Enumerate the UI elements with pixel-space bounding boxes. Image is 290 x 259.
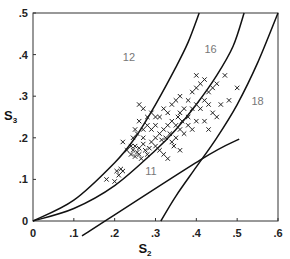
x-marker	[139, 156, 143, 160]
curve-12	[33, 13, 199, 221]
x-marker	[117, 173, 121, 177]
x-marker	[215, 115, 219, 119]
x-marker	[190, 127, 194, 131]
x-marker	[178, 148, 182, 152]
x-marker	[182, 131, 186, 135]
x-marker	[182, 106, 186, 110]
x-marker	[176, 115, 180, 119]
x-marker	[194, 102, 198, 106]
x-marker	[149, 140, 153, 144]
x-marker	[153, 144, 157, 148]
x-marker	[129, 152, 133, 156]
x-marker	[194, 73, 198, 77]
curve-label-16: 16	[205, 43, 217, 55]
x-marker	[157, 131, 161, 135]
x-marker	[143, 148, 147, 152]
x-marker	[202, 98, 206, 102]
curve-label-12: 12	[123, 51, 135, 63]
x-marker	[227, 98, 231, 102]
data-points	[104, 73, 239, 183]
x-marker	[170, 140, 174, 144]
x-marker	[137, 152, 141, 156]
x-marker	[194, 86, 198, 90]
x-marker	[174, 136, 178, 140]
x-marker	[178, 111, 182, 115]
y-tick-label: .2	[19, 132, 28, 144]
x-marker	[157, 115, 161, 119]
x-marker	[206, 102, 210, 106]
scatter-chart: 0.1.2.3.4.5.6 0.1.2.3.4.5 12161811 S2 S3	[0, 0, 290, 259]
x-marker	[166, 123, 170, 127]
x-marker	[166, 111, 170, 115]
x-marker	[133, 154, 137, 158]
x-marker	[174, 98, 178, 102]
x-marker	[161, 152, 165, 156]
x-marker	[115, 169, 119, 173]
x-marker	[153, 136, 157, 140]
x-marker	[166, 156, 170, 160]
curve-label-11: 11	[145, 165, 156, 177]
x-marker	[137, 119, 141, 123]
x-marker	[210, 111, 214, 115]
x-marker	[137, 146, 141, 150]
x-marker	[121, 140, 125, 144]
x-marker	[206, 127, 210, 131]
x-marker	[112, 179, 116, 183]
x-marker	[137, 102, 141, 106]
x-marker	[145, 152, 149, 156]
x-marker	[198, 106, 202, 110]
x-marker	[178, 94, 182, 98]
x-marker	[147, 146, 151, 150]
x-tick-label: .3	[151, 227, 160, 239]
x-marker	[121, 169, 125, 173]
y-tick-label: .4	[19, 49, 29, 61]
curves	[33, 13, 278, 236]
x-marker	[157, 148, 161, 152]
x-marker	[133, 144, 137, 148]
x-tick-label: .6	[273, 227, 282, 239]
x-marker	[161, 127, 165, 131]
y-tick-label: .3	[19, 90, 28, 102]
x-marker	[174, 123, 178, 127]
x-axis-title: S2	[138, 241, 152, 258]
x-marker	[219, 102, 223, 106]
x-marker	[206, 90, 210, 94]
y-tick-label: .1	[19, 173, 28, 185]
x-marker	[172, 144, 176, 148]
x-marker	[149, 127, 153, 131]
x-marker	[194, 119, 198, 123]
y-tick-label: 0	[22, 215, 28, 227]
x-marker	[141, 127, 145, 131]
x-tick-label: .4	[192, 227, 202, 239]
x-marker	[186, 123, 190, 127]
x-tick-label: .2	[110, 227, 119, 239]
x-marker	[170, 119, 174, 123]
x-marker	[202, 77, 206, 81]
x-marker	[141, 142, 145, 146]
x-marker	[190, 90, 194, 94]
x-marker	[170, 102, 174, 106]
x-marker	[133, 127, 137, 131]
x-marker	[198, 82, 202, 86]
x-tick-label: .1	[69, 227, 78, 239]
x-tick-label: 0	[30, 227, 36, 239]
x-marker	[153, 115, 157, 119]
x-marker	[215, 82, 219, 86]
y-axis-title: S3	[4, 108, 18, 125]
x-marker	[178, 127, 182, 131]
x-marker	[141, 106, 145, 110]
x-marker	[186, 98, 190, 102]
x-marker	[131, 148, 135, 152]
x-marker	[161, 106, 165, 110]
x-marker	[223, 73, 227, 77]
x-marker	[202, 119, 206, 123]
curve-label-18: 18	[251, 95, 263, 107]
x-marker	[210, 86, 214, 90]
y-tick-label: .5	[19, 7, 28, 19]
x-tick-label: .5	[233, 227, 242, 239]
x-marker	[104, 177, 108, 181]
x-marker	[141, 136, 145, 140]
x-marker	[235, 86, 239, 90]
x-marker	[153, 123, 157, 127]
x-marker	[159, 138, 163, 142]
